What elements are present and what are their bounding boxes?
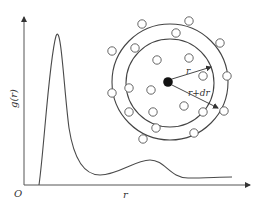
particle <box>172 29 180 37</box>
particle <box>185 54 193 62</box>
particle <box>180 102 188 110</box>
shell-label: r+dr <box>188 88 211 98</box>
x-axis-label: r <box>123 189 129 200</box>
particle <box>199 72 207 80</box>
radius-label: r <box>186 66 191 76</box>
particle <box>125 108 133 116</box>
particle <box>190 129 198 137</box>
particle <box>185 17 193 25</box>
particle <box>199 108 207 116</box>
particle <box>223 72 231 80</box>
particle <box>125 84 133 92</box>
y-axis-label: g(r) <box>8 89 19 108</box>
particle <box>147 86 155 94</box>
central-particle <box>163 77 173 87</box>
particle <box>152 124 160 132</box>
particle <box>108 47 116 55</box>
particle <box>216 39 224 47</box>
particle <box>108 89 116 97</box>
particle <box>139 135 147 143</box>
particle <box>149 108 157 116</box>
particle <box>138 20 146 28</box>
particle <box>220 107 228 115</box>
particle <box>153 56 161 64</box>
origin-label: O <box>14 188 22 199</box>
inset-diagram: r r+dr <box>108 17 231 143</box>
rdf-figure: O r g(r) <box>0 0 256 211</box>
particle <box>131 44 139 52</box>
